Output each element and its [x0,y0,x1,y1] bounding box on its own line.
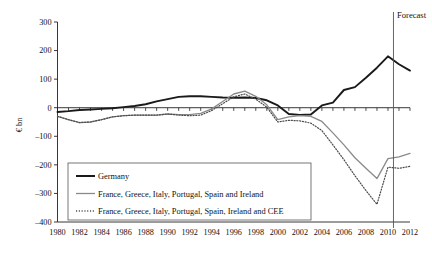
y-axis-tick-label: –300 [34,189,51,198]
x-axis-tick-label: 1986 [115,228,131,237]
legend-label-1: Germany [98,172,130,181]
x-axis-tick-label: 1984 [93,228,109,237]
legend-label-2: France, Greece, Italy, Portugal, Spain a… [98,190,264,199]
forecast-label: Forecast [397,10,427,20]
x-axis-tick-label: 1996 [226,228,242,237]
x-axis-tick-label: 1992 [182,228,198,237]
x-axis-tick-label: 1994 [204,228,220,237]
x-axis-tick-label: 1998 [248,228,264,237]
y-axis-tick-label: 200 [39,46,51,55]
x-axis-tick-label: 1980 [49,228,65,237]
y-axis-tick-label: –100 [34,132,51,141]
line-chart: 3002001000–100–200–300–400 1980198219841… [0,0,432,261]
x-axis-tick-label: 1990 [159,228,175,237]
chart-legend: GermanyFrance, Greece, Italy, Portugal, … [68,163,311,220]
y-axis-tick-label: –200 [34,161,51,170]
legend-label-3: France, Greece, Italy, Portugal, Spain, … [98,207,284,216]
y-axis-tick-label: 0 [47,104,51,113]
x-axis-tick-label: 2004 [314,228,330,237]
x-axis-tick-label: 2002 [292,228,308,237]
y-axis-tick-label: –400 [34,218,51,227]
y-axis-title: € bn [15,117,24,132]
x-axis-tick-label: 2010 [380,228,396,237]
x-axis-tick-label: 1988 [137,228,153,237]
x-axis-tick-label: 2000 [270,228,286,237]
y-axis-tick-label: 100 [39,75,51,84]
x-axis-tick-label: 2006 [336,228,352,237]
x-axis-tick-label: 1982 [71,228,87,237]
x-axis-tick-label: 2012 [402,228,418,237]
chart-container: 3002001000–100–200–300–400 1980198219841… [0,0,432,261]
y-axis-tick-label: 300 [39,18,51,27]
x-axis-tick-label: 2008 [358,228,374,237]
